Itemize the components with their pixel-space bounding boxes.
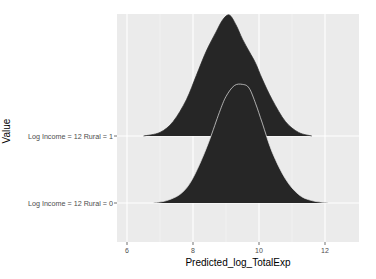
y-axis-title: Value: [1, 118, 12, 143]
ridgeline-chart: 681012 Log Income = 12 Rural = 0Log Inco…: [0, 0, 376, 279]
x-tick-label: 8: [191, 247, 195, 254]
y-category-label: Log Income = 12 Rural = 0: [28, 199, 113, 208]
x-axis-title: Predicted_log_TotalExp: [185, 257, 291, 268]
y-axis-ticks: Log Income = 12 Rural = 0Log Income = 12…: [28, 132, 117, 208]
x-tick-label: 12: [321, 247, 329, 254]
x-axis-ticks: 681012: [125, 242, 329, 254]
x-tick-label: 6: [125, 247, 129, 254]
x-tick-label: 10: [255, 247, 263, 254]
y-category-label: Log Income = 12 Rural = 1: [28, 132, 113, 141]
